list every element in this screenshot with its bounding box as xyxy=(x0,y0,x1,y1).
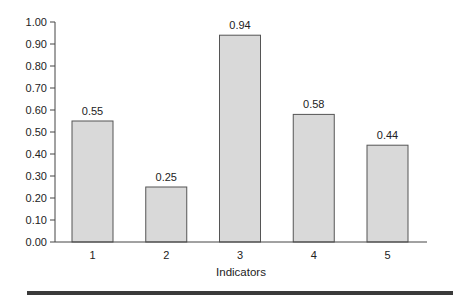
y-tick-label: 0.30 xyxy=(26,170,47,182)
y-tick-label: 0.10 xyxy=(26,214,47,226)
bars: 0.550.250.940.580.44 xyxy=(72,19,408,242)
bar-4 xyxy=(293,114,334,242)
bar-value-label: 0.25 xyxy=(156,171,177,183)
y-tick-label: 0.00 xyxy=(26,236,47,248)
bar-value-label: 0.94 xyxy=(229,19,250,31)
y-tick-label: 1.00 xyxy=(26,16,47,28)
bottom-rule xyxy=(27,291,453,295)
y-tick-label: 0.60 xyxy=(26,104,47,116)
bar-value-label: 0.44 xyxy=(377,129,398,141)
x-axis: 12345 xyxy=(55,242,427,261)
bar-chart: 0.000.100.200.300.400.500.600.700.800.90… xyxy=(0,0,456,298)
bar-2 xyxy=(146,187,187,242)
bar-1 xyxy=(72,121,113,242)
x-axis-title: Indicators xyxy=(216,266,266,278)
x-tick-label: 5 xyxy=(384,249,390,261)
bar-value-label: 0.58 xyxy=(303,98,324,110)
y-axis: 0.000.100.200.300.400.500.600.700.800.90… xyxy=(26,16,55,248)
bar-value-label: 0.55 xyxy=(82,105,103,117)
x-tick-label: 3 xyxy=(237,249,243,261)
y-tick-label: 0.90 xyxy=(26,38,47,50)
y-tick-label: 0.80 xyxy=(26,60,47,72)
y-tick-label: 0.40 xyxy=(26,148,47,160)
bar-5 xyxy=(367,145,408,242)
x-tick-label: 2 xyxy=(163,249,169,261)
x-tick-label: 1 xyxy=(89,249,95,261)
x-tick-label: 4 xyxy=(311,249,317,261)
y-tick-label: 0.70 xyxy=(26,82,47,94)
y-tick-label: 0.20 xyxy=(26,192,47,204)
bar-3 xyxy=(220,35,261,242)
y-tick-label: 0.50 xyxy=(26,126,47,138)
